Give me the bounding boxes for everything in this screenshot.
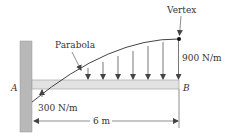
- fixed-wall-support: [20, 41, 32, 132]
- beam-diagram: [0, 0, 230, 140]
- vertex-label: Vertex: [167, 6, 196, 15]
- load-end-label: 900 N/m: [182, 54, 221, 63]
- parabola-leader: [72, 52, 81, 70]
- parabola-label: Parabola: [55, 41, 95, 50]
- point-b-label: B: [183, 84, 190, 93]
- load-start-label: 300 N/m: [38, 104, 77, 113]
- span-label: 6 m: [93, 117, 110, 126]
- point-a-label: A: [11, 84, 18, 93]
- vertex-leader: [180, 16, 182, 35]
- vertex-point: [177, 37, 181, 41]
